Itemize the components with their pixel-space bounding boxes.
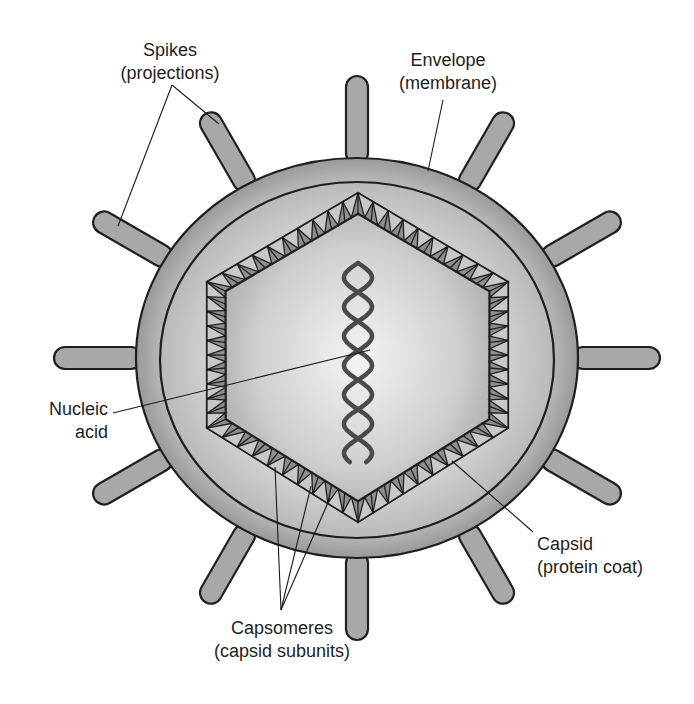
label-envelope: Envelope (membrane) bbox=[399, 50, 497, 93]
label-spikes-title: Spikes bbox=[143, 40, 197, 60]
label-capsid-title: Capsid bbox=[537, 534, 593, 554]
label-capsid: Capsid (protein coat) bbox=[537, 534, 643, 577]
label-nucleic-acid-title: Nucleic bbox=[49, 399, 108, 419]
label-spikes: Spikes (projections) bbox=[120, 40, 219, 83]
label-capsid-subtitle: (protein coat) bbox=[537, 557, 643, 577]
virus-diagram: Spikes (projections) Envelope (membrane)… bbox=[0, 0, 694, 704]
spike bbox=[572, 347, 660, 369]
label-envelope-title: Envelope bbox=[410, 50, 485, 70]
label-capsomeres: Capsomeres (capsid subunits) bbox=[214, 618, 350, 661]
label-spikes-subtitle: (projections) bbox=[120, 63, 219, 83]
label-nucleic-acid-subtitle: acid bbox=[75, 422, 108, 442]
label-envelope-subtitle: (membrane) bbox=[399, 73, 497, 93]
leader-spikes-a bbox=[118, 85, 172, 226]
spike bbox=[54, 347, 142, 369]
label-capsomeres-subtitle: (capsid subunits) bbox=[214, 641, 350, 661]
leader-spikes-b bbox=[172, 85, 219, 124]
spike bbox=[346, 552, 368, 640]
label-nucleic-acid: Nucleic acid bbox=[49, 399, 108, 442]
spike bbox=[346, 76, 368, 164]
leader-envelope bbox=[428, 100, 443, 171]
label-capsomeres-title: Capsomeres bbox=[231, 618, 333, 638]
